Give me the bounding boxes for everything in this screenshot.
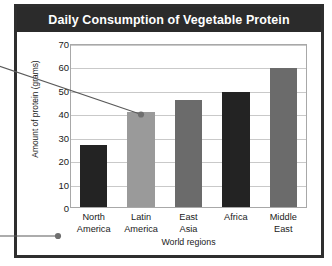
bar-slot	[212, 44, 259, 207]
bar-slot	[70, 44, 117, 207]
x-tick-east-asia: EastAsia	[165, 212, 212, 235]
bar-north-america[interactable]	[80, 145, 107, 207]
bar-series	[70, 44, 307, 207]
y-axis-tick-label: 50	[29, 85, 69, 96]
x-tick-africa: Africa	[212, 212, 259, 235]
x-tick-latin-america: LatinAmerica	[117, 212, 164, 235]
y-axis-tick-label: 0	[29, 203, 69, 214]
x-tick-line: Middle	[260, 212, 307, 224]
x-tick-line: America	[117, 224, 164, 236]
bar-slot	[117, 44, 164, 207]
x-tick-middle-east: MiddleEast	[260, 212, 307, 235]
x-tick-north-america: NorthAmerica	[70, 212, 117, 235]
chart-figure: Daily Consumption of Vegetable Protein A…	[0, 0, 332, 266]
y-axis-tick-label: 40	[29, 109, 69, 120]
x-tick-line: Africa	[212, 212, 259, 224]
bar-africa[interactable]	[222, 92, 249, 207]
chart-title-band: Daily Consumption of Vegetable Protein	[17, 7, 321, 32]
page-title: Daily Consumption of Vegetable Protein	[48, 13, 289, 27]
x-axis-tick-labels: NorthAmericaLatinAmericaEastAsiaAfrica M…	[70, 212, 307, 235]
chart-body: Amount of protein (grams) 01020304050607…	[17, 32, 321, 255]
x-tick-line: Latin	[117, 212, 164, 224]
bar-latin-america[interactable]	[127, 112, 154, 207]
x-tick-line	[212, 224, 259, 236]
y-axis-tick-label: 30	[29, 132, 69, 143]
y-axis-tick-label: 10	[29, 179, 69, 190]
x-axis-title: World regions	[70, 237, 307, 247]
x-tick-line: Asia	[165, 224, 212, 236]
bar-middle-east[interactable]	[270, 68, 297, 207]
y-axis-tick-label: 60	[29, 62, 69, 73]
x-tick-line: America	[70, 224, 117, 236]
x-tick-line: East	[165, 212, 212, 224]
y-axis-tick-label: 20	[29, 156, 69, 167]
y-axis-tick-label: 70	[29, 39, 69, 50]
x-tick-line: North	[70, 212, 117, 224]
bar-slot	[165, 44, 212, 207]
bar-slot	[260, 44, 307, 207]
x-tick-line: East	[260, 224, 307, 236]
bar-east-asia[interactable]	[175, 100, 202, 207]
